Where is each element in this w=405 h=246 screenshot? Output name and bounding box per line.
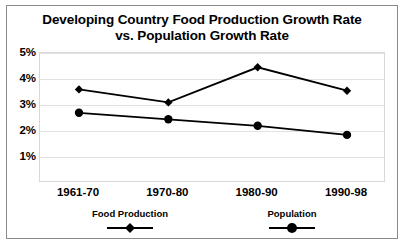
x-axis: 1961-701970-801980-901990-98 xyxy=(39,186,385,202)
circle-marker-icon xyxy=(263,221,321,235)
legend-entry[interactable]: Food Production xyxy=(60,208,200,235)
x-tick-label: 1980-90 xyxy=(212,186,302,198)
diamond-marker-icon xyxy=(101,221,159,235)
chart-title: Developing Country Food Production Growt… xyxy=(7,12,397,44)
chart-title-line-2: vs. Population Growth Rate xyxy=(7,28,397,44)
x-tick-label: 1990-98 xyxy=(301,186,391,198)
y-tick-label: 1% xyxy=(2,150,36,162)
diamond-marker-icon xyxy=(343,87,351,95)
plot-area xyxy=(39,52,385,182)
circle-marker-icon xyxy=(343,131,351,139)
legend-key xyxy=(60,221,200,235)
circle-marker-icon xyxy=(75,109,83,117)
y-tick-label: 4% xyxy=(2,72,36,84)
y-tick-label: 3% xyxy=(2,98,36,110)
series-1 xyxy=(75,63,351,107)
circle-marker-icon xyxy=(253,122,261,130)
series-2 xyxy=(75,109,351,140)
y-tick-label: 2% xyxy=(2,124,36,136)
x-tick-label: 1970-80 xyxy=(122,186,212,198)
legend-label: Population xyxy=(222,208,362,220)
diamond-marker-icon xyxy=(164,98,172,106)
series-line xyxy=(79,113,347,135)
legend-entry[interactable]: Population xyxy=(222,208,362,235)
x-tick-label: 1961-70 xyxy=(33,186,123,198)
legend-key xyxy=(222,221,362,235)
plot-series-layer xyxy=(40,53,386,183)
diamond-marker-icon xyxy=(75,85,83,93)
series-line xyxy=(79,67,347,102)
diamond-marker-icon xyxy=(253,63,261,71)
y-tick-label: 5% xyxy=(2,46,36,58)
circle-marker-icon xyxy=(164,115,172,123)
chart-legend: Food ProductionPopulation xyxy=(0,208,405,240)
legend-label: Food Production xyxy=(60,208,200,220)
chart-title-line-1: Developing Country Food Production Growt… xyxy=(7,12,397,28)
